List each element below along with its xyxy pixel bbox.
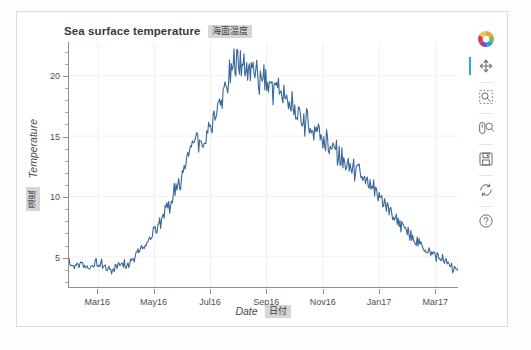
plot-title-row: Sea surface temperature 海面温度 <box>64 25 252 38</box>
plot-toolbar[interactable] <box>472 30 500 236</box>
toolbar-divider <box>479 175 493 176</box>
y-axis-japanese-badge: 温度 <box>26 187 40 211</box>
x-axis-tick <box>97 289 98 294</box>
x-axis-tick <box>266 289 267 294</box>
y-axis-tick-label: 20 <box>50 71 60 81</box>
x-axis-tick <box>435 289 436 294</box>
page-title: Sea surface temperature <box>64 25 201 37</box>
save-tool-button[interactable] <box>473 148 499 170</box>
x-axis-tick <box>210 289 211 294</box>
temperature-line-series <box>69 42 458 287</box>
toolbar-divider <box>479 206 493 207</box>
x-axis-title: Date <box>235 305 257 317</box>
box-zoom-tool-button[interactable] <box>473 86 499 108</box>
wheel-zoom-tool-button[interactable] <box>473 117 499 139</box>
bokeh-figure: Sea surface temperature 海面温度 Temperature… <box>0 0 531 350</box>
x-axis-tick <box>323 289 324 294</box>
reset-tool-button[interactable] <box>473 179 499 201</box>
toolbar-divider <box>479 144 493 145</box>
x-axis-tick <box>154 289 155 294</box>
help-tool-button[interactable] <box>473 210 499 232</box>
x-axis-tick <box>379 289 380 294</box>
bokeh-logo-icon[interactable] <box>477 30 495 48</box>
toolbar-divider <box>479 82 493 83</box>
toolbar-divider <box>479 113 493 114</box>
title-japanese-badge: 海面温度 <box>208 25 252 38</box>
y-axis-title: Temperature <box>27 119 39 178</box>
plot-area[interactable] <box>68 42 458 288</box>
y-axis-tick-label: 15 <box>50 132 60 142</box>
y-axis: 5101520 <box>40 42 68 289</box>
y-axis-tick-label: 10 <box>50 192 60 202</box>
pan-tool-button[interactable] <box>473 55 499 77</box>
x-axis-japanese-badge: 日付 <box>265 305 291 318</box>
y-axis-tick-label: 5 <box>55 253 60 263</box>
x-axis-title-group: Date 日付 <box>68 305 458 318</box>
